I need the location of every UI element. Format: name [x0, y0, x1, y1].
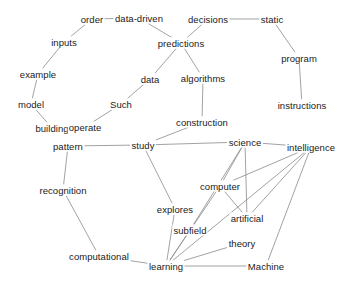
- graph-edge: [66, 196, 96, 251]
- graph-node-data[interactable]: data: [140, 74, 161, 85]
- graph-node-static[interactable]: static: [260, 14, 284, 25]
- graph-edge: [184, 49, 199, 73]
- graph-edge: [148, 24, 172, 38]
- graph-edge: [223, 148, 242, 181]
- graph-edge: [170, 236, 187, 261]
- graph-node-explores[interactable]: explores: [156, 204, 194, 215]
- graph-node-intelligence[interactable]: intelligence: [286, 142, 336, 153]
- graph-node-order[interactable]: order: [80, 14, 104, 25]
- graph-edge: [36, 110, 47, 123]
- graph-node-pattern[interactable]: pattern: [52, 141, 84, 152]
- graph-edge: [263, 143, 286, 145]
- graph-edge: [245, 148, 247, 213]
- graph-node-learning[interactable]: learning: [148, 261, 184, 272]
- graph-node-instructions[interactable]: instructions: [277, 100, 328, 111]
- graph-node-machine[interactable]: Machine: [247, 261, 285, 272]
- graph-node-such[interactable]: Such: [109, 99, 133, 110]
- graph-edge: [146, 151, 173, 204]
- graph-edge: [233, 153, 298, 181]
- graph-node-building[interactable]: building: [34, 123, 69, 134]
- graph-node-computer[interactable]: computer: [199, 181, 241, 192]
- graph-node-data-driven[interactable]: data-driven: [114, 13, 164, 24]
- graph-node-algorithms[interactable]: algorithms: [180, 73, 226, 84]
- graph-node-computational[interactable]: computational: [68, 251, 130, 262]
- graph-node-decisions[interactable]: decisions: [187, 14, 229, 25]
- graph-edge: [32, 80, 36, 99]
- graph-node-predictions[interactable]: predictions: [157, 38, 206, 49]
- graph-node-example[interactable]: example: [19, 69, 57, 80]
- graph-node-inputs[interactable]: inputs: [50, 37, 78, 48]
- graph-node-model[interactable]: model: [17, 99, 45, 110]
- graph-edge: [299, 64, 301, 100]
- graph-node-artificial[interactable]: artificial: [230, 213, 265, 224]
- graph-node-recognition[interactable]: recognition: [38, 185, 87, 196]
- graph-edge: [276, 25, 295, 53]
- graph-node-construction[interactable]: construction: [175, 117, 229, 128]
- graph-node-subfield[interactable]: subfield: [172, 225, 207, 236]
- graph-edge: [225, 192, 243, 213]
- graph-edge: [71, 25, 86, 37]
- graph-edge: [268, 153, 309, 261]
- graph-edge: [64, 152, 68, 185]
- graph-edge: [42, 48, 59, 69]
- graph-node-science[interactable]: science: [228, 137, 263, 148]
- concept-network-graph: orderdata-drivendecisionsstaticinputspre…: [0, 0, 351, 287]
- graph-node-study[interactable]: study: [131, 140, 156, 151]
- graph-edge: [85, 145, 131, 146]
- graph-edge: [202, 84, 203, 117]
- graph-edge: [187, 25, 202, 38]
- graph-edge: [131, 261, 148, 264]
- graph-edge: [167, 215, 174, 261]
- graph-node-theory[interactable]: theory: [228, 238, 257, 249]
- graph-edge: [155, 49, 177, 74]
- graph-edge: [156, 143, 227, 145]
- graph-edge: [184, 248, 227, 261]
- graph-node-operate[interactable]: operate: [68, 122, 103, 133]
- graph-edge: [127, 85, 143, 99]
- graph-node-program[interactable]: program: [280, 53, 318, 64]
- graph-edge: [94, 110, 113, 122]
- graph-edge: [156, 128, 188, 140]
